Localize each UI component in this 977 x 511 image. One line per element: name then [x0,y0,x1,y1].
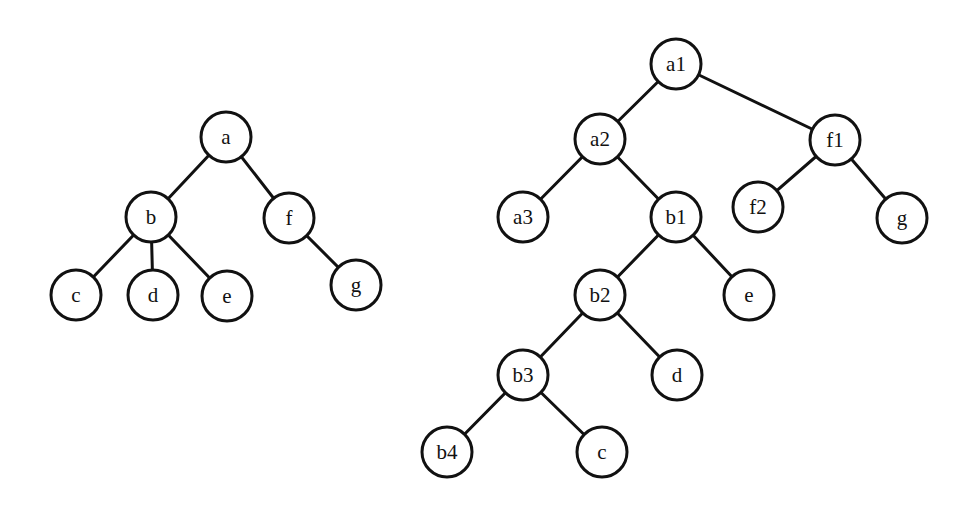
node-label: f1 [826,128,844,152]
tree-diagram: abfcdega1a2f1a3b1f2gb2eb3db4c [0,0,977,511]
node-label: a3 [513,205,533,229]
node-binarized-tree-b1: b1 [651,192,701,242]
node-original-tree-c: c [51,270,101,320]
node-binarized-tree-d: d [652,350,702,400]
node-label: f2 [749,195,767,219]
node-label: b2 [590,283,611,307]
node-label: b3 [513,363,534,387]
node-binarized-tree-a2: a2 [575,114,625,164]
node-label: a2 [590,127,610,151]
node-label: f [286,206,293,230]
node-binarized-tree-b2: b2 [575,270,625,320]
node-label: a1 [666,52,686,76]
node-label: e [222,284,231,308]
node-binarized-tree-a1: a1 [651,39,701,89]
edges-layer [76,64,902,452]
node-original-tree-e: e [202,271,252,321]
node-binarized-tree-b3: b3 [498,350,548,400]
node-label: b [146,205,157,229]
node-original-tree-b: b [126,192,176,242]
node-label: a [221,125,231,149]
node-original-tree-a: a [201,112,251,162]
node-label: d [148,283,159,307]
node-label: e [744,283,753,307]
node-label: c [71,283,80,307]
node-binarized-tree-f1: f1 [810,115,860,165]
node-binarized-tree-b4: b4 [422,427,472,477]
node-label: c [597,440,606,464]
node-binarized-tree-e: e [724,270,774,320]
node-binarized-tree-f2: f2 [733,182,783,232]
node-label: g [351,273,362,297]
node-binarized-tree-a3: a3 [498,192,548,242]
node-label: b1 [666,205,687,229]
node-binarized-tree-g: g [877,193,927,243]
node-original-tree-d: d [128,270,178,320]
node-original-tree-g: g [331,260,381,310]
node-label: b4 [437,440,459,464]
node-label: g [897,206,908,230]
node-original-tree-f: f [264,193,314,243]
node-binarized-tree-c: c [577,427,627,477]
node-label: d [672,363,683,387]
